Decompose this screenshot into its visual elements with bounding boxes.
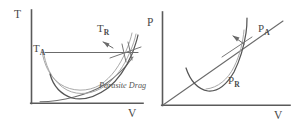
power-y-axis-label: P (147, 16, 153, 28)
thrust-chart: T V TR TA Parasite (14, 8, 146, 119)
power-available-label: PA (258, 22, 270, 37)
thrust-y-axis-label: T (14, 8, 21, 20)
power-required-label: PR (228, 74, 240, 89)
figure-canvas: T V TR TA Parasite (0, 0, 300, 125)
power-x-axis-label: V (274, 109, 283, 121)
figure-root: T V TR TA Parasite (0, 0, 300, 125)
parasite-drag-label: Parasite Drag (98, 81, 146, 90)
thrust-x-axis-label: V (128, 107, 137, 119)
thrust-required-label: TR (97, 22, 110, 37)
power-chart: P V PA PR (147, 12, 290, 121)
thrust-available-label: TA (33, 42, 46, 57)
arrow-icon (233, 36, 240, 42)
arrow-icon (103, 42, 110, 48)
